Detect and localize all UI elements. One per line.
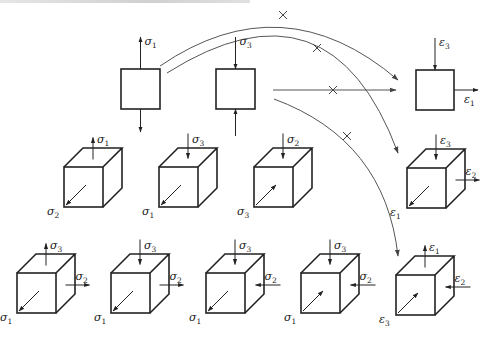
stress-label: ε3 (439, 36, 450, 51)
front-label: ε3 (379, 313, 390, 328)
stress-label: σ1 (145, 35, 157, 50)
cross-mark-icon (343, 132, 351, 140)
cube-r3-2: σ3σ1σ2 (94, 239, 184, 327)
cube-r3-3: σ3σ1σ2 (189, 239, 281, 327)
cross-mark-icon (279, 11, 287, 19)
cube-r3-5: ε1ε3ε2 (379, 241, 471, 329)
stress-label: σ3 (240, 35, 253, 50)
cube-r2-1: σ1σ2 (47, 133, 122, 221)
top-label: σ3 (192, 133, 205, 148)
cube-r2-2: σ3σ1 (142, 133, 217, 221)
front-arrow-in (256, 185, 276, 205)
front-label: σ1 (94, 311, 106, 326)
cube-r2-3: σ2σ3 (237, 133, 312, 221)
front-arrow-in (398, 293, 418, 313)
front-arrow-out (19, 291, 39, 311)
side-label: ε2 (455, 272, 466, 287)
top-label: σ3 (50, 239, 63, 254)
stress-strain-diagram: σ1σ3ε3ε1σ1σ2σ3σ1σ2σ3ε3ε1ε2σ3σ1σ2σ3σ1σ2σ3… (0, 0, 488, 337)
curve-a-connector (160, 11, 398, 80)
front-label: σ1 (142, 205, 154, 220)
top-label: ε1 (429, 241, 440, 256)
plane-strain-element: ε3ε1 (416, 36, 478, 110)
top-label: σ3 (144, 239, 157, 254)
front-arrow-in (303, 291, 323, 311)
front-label: σ2 (47, 205, 60, 220)
front-arrow-out (208, 291, 228, 311)
front-label: σ1 (189, 311, 201, 326)
front-arrow-out (66, 185, 86, 205)
front-arrow-out (161, 185, 181, 205)
side-label: σ2 (76, 270, 89, 285)
uniaxial-compression-element: σ3 (216, 35, 255, 136)
cube-r3-1: σ3σ1σ2 (0, 239, 90, 327)
strain-label: ε1 (464, 93, 475, 108)
side-label: ε2 (466, 165, 477, 180)
uniaxial-tension-element: σ1 (121, 35, 160, 132)
side-label: σ2 (360, 270, 373, 285)
side-label: σ2 (170, 270, 183, 285)
top-label: σ2 (287, 133, 300, 148)
top-label: σ3 (334, 239, 347, 254)
line-c-connector (273, 86, 396, 94)
front-label: ε1 (390, 206, 401, 221)
top-label: ε3 (440, 134, 451, 149)
front-arrow-out (409, 186, 429, 206)
cross-mark-icon (313, 44, 321, 52)
front-label: σ3 (237, 205, 250, 220)
side-label: σ2 (265, 270, 278, 285)
top-label: σ3 (239, 239, 252, 254)
element-layer: σ1σ3ε3ε1σ1σ2σ3σ1σ2σ3ε3ε1ε2σ3σ1σ2σ3σ1σ2σ3… (0, 35, 480, 328)
cube-r2-4: ε3ε1ε2 (390, 134, 480, 222)
cube-r3-4: σ3σ1σ2 (284, 239, 376, 327)
front-arrow-out (113, 291, 133, 311)
front-label: σ1 (284, 311, 296, 326)
top-label: σ1 (97, 133, 109, 148)
front-label: σ1 (0, 311, 12, 326)
